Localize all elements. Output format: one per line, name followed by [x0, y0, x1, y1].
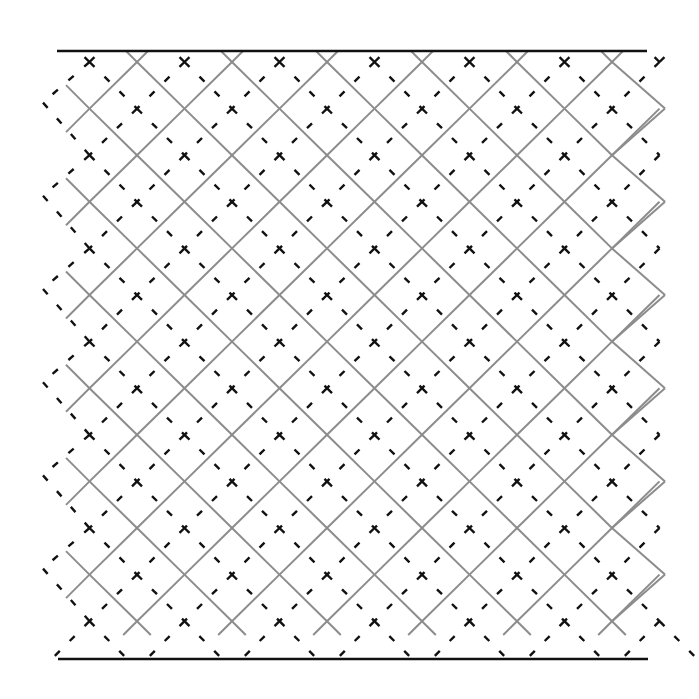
dashed-lattice — [43, 52, 694, 656]
lattice-svg — [0, 0, 699, 699]
lattice-diagram — [0, 0, 699, 699]
solid-grey-lattice — [66, 51, 665, 635]
